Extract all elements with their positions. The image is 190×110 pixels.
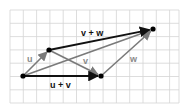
grid	[10, 10, 179, 103]
point-a	[20, 73, 25, 78]
label-w: w	[129, 54, 138, 64]
point-b	[46, 47, 51, 52]
label-v-plus-w: v + w	[81, 28, 104, 38]
label-u: u	[27, 54, 33, 64]
point-d	[150, 26, 155, 31]
vector-diagram: u v w u + v v + w	[0, 0, 190, 110]
label-v: v	[83, 56, 88, 66]
vector-v	[49, 50, 98, 75]
label-u-plus-v: u + v	[50, 80, 71, 90]
point-c	[98, 73, 103, 78]
